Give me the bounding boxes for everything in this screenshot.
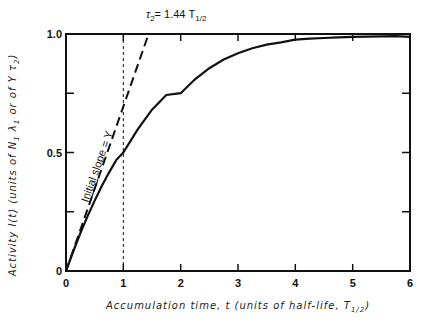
x-tick-4: 4 <box>292 277 299 289</box>
tau-annotation: τ2= 1.44 T1/2 <box>146 8 207 23</box>
initial-slope-annotation: Initial slope = Y <box>79 129 115 204</box>
x-tick-labels: 0 1 2 3 4 5 6 <box>63 277 413 289</box>
y-tick-labels: 0 0.5 1.0 <box>47 28 62 277</box>
x-axis-ticks <box>123 34 352 271</box>
x-axis-label: Accumulation time, t (units of half-life… <box>105 300 370 314</box>
activity-accumulation-chart: 0 1 2 3 4 5 6 0 0.5 1.0 Accumulation tim… <box>0 0 431 330</box>
activity-curve <box>66 36 410 271</box>
x-tick-0: 0 <box>63 277 69 289</box>
y-tick-0-5: 0.5 <box>47 147 62 159</box>
y-tick-1-0: 1.0 <box>47 28 62 40</box>
x-tick-5: 5 <box>350 277 356 289</box>
y-axis-ticks <box>66 93 410 212</box>
y-axis-label: Activity I(t) (units of N1 λ1 or of Y τ2… <box>7 54 21 278</box>
x-tick-3: 3 <box>235 277 241 289</box>
x-tick-2: 2 <box>178 277 184 289</box>
x-tick-6: 6 <box>407 277 413 289</box>
plot-frame <box>66 34 410 271</box>
x-tick-1: 1 <box>120 277 126 289</box>
y-tick-0: 0 <box>56 265 62 277</box>
